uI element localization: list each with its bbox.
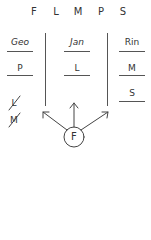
arrow-left-icon: [43, 112, 67, 130]
arrow-right-icon: [81, 112, 108, 130]
strike-mark-icon: [9, 113, 20, 127]
strike-mark-icon: [9, 96, 20, 110]
node-label: F: [66, 131, 82, 142]
